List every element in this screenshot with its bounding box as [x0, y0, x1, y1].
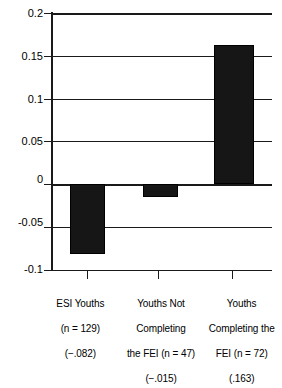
x-label-esi-youths-line3: (−.082) [40, 348, 121, 360]
y-axis-labels: 0.2 0.15 0.1 0.05 0 -0.05 -0.1 [0, 0, 43, 347]
x-label-youths-completing-fei-line2: Completing the [201, 323, 282, 335]
x-label-youths-completing-fei: Youths Completing the FEI (n = 72) (.163… [201, 286, 282, 388]
x-label-esi-youths-line1: ESI Youths [40, 298, 121, 310]
y-tick-label-3: 0.05 [0, 136, 43, 147]
x-label-youths-not-completing-fei-line3: the FEI (n = 47) [121, 348, 202, 360]
y-tick-mark-0.1 [44, 99, 52, 100]
y-tick-label-6: -0.1 [0, 264, 43, 275]
x-tick-mark-youths-completing-fei [232, 271, 233, 279]
x-label-esi-youths: ESI Youths (n = 129) (−.082) [40, 286, 121, 385]
x-label-youths-not-completing-fei-line2: Completing [121, 323, 202, 335]
x-tick-mark-youths-not-completing-fei [158, 271, 159, 279]
x-tick-mark-esi-youths [87, 271, 88, 279]
plot-area [52, 13, 272, 270]
x-axis-labels: ESI Youths (n = 129) (−.082) Youths Not … [40, 286, 282, 347]
y-tick-mark-neg0.05 [44, 227, 52, 228]
x-label-youths-completing-fei-line1: Youths [201, 298, 282, 310]
y-tick-label-0: 0.2 [0, 8, 43, 19]
x-label-youths-not-completing-fei-line4: (−.015) [121, 373, 202, 385]
x-label-esi-youths-line2: (n = 129) [40, 323, 121, 335]
gridline-0.2 [52, 13, 272, 15]
x-label-youths-not-completing-fei: Youths Not Completing the FEI (n = 47) (… [121, 286, 202, 388]
gridline-neg0.1 [52, 270, 272, 272]
x-label-youths-not-completing-fei-line1: Youths Not [121, 298, 202, 310]
bar-youths-completing-fei[interactable] [214, 45, 254, 185]
y-tick-mark-0.05 [44, 141, 52, 142]
y-tick-mark-neg0.1 [44, 270, 52, 271]
x-label-youths-completing-fei-line3: FEI (n = 72) [201, 348, 282, 360]
y-tick-label-4: 0 [0, 174, 43, 185]
y-tick-mark-0 [44, 184, 52, 185]
y-tick-label-2: 0.1 [0, 94, 43, 105]
bar-youths-not-completing-fei[interactable] [143, 184, 178, 197]
y-tick-mark-0.15 [44, 56, 52, 57]
y-tick-label-1: 0.15 [0, 51, 43, 62]
x-label-youths-completing-fei-line4: (.163) [201, 373, 282, 385]
y-tick-mark-0.2 [44, 13, 52, 14]
bar-esi-youths[interactable] [70, 184, 105, 254]
y-tick-label-5: -0.05 [0, 217, 43, 228]
